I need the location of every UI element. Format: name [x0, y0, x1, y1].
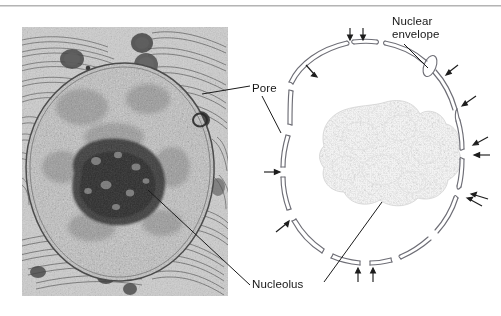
pore-arrow [467, 197, 482, 206]
pore-arrow [306, 65, 317, 77]
label-nuclear-envelope-line2: envelope [392, 28, 439, 41]
label-nucleolus: Nucleolus [252, 278, 303, 291]
pore-arrow [264, 170, 280, 175]
pore-arrow [471, 192, 488, 199]
pore-arrow [276, 221, 289, 232]
diagram-nucleolus [310, 95, 475, 215]
nuclear-envelope-diagram [250, 10, 501, 310]
pore-arrow [446, 65, 458, 75]
pore-arrow [474, 153, 490, 158]
top-rule-secondary [0, 6, 501, 7]
pore-arrow [462, 96, 476, 106]
figure-root: Pore Nucleolus Nuclear envelope [0, 0, 501, 316]
label-nuclear-envelope-line1: Nuclear [392, 15, 439, 28]
micrograph-image [22, 27, 228, 296]
pore-arrow [348, 28, 353, 40]
line-diagram-panel [250, 10, 501, 310]
label-nuclear-envelope: Nuclear envelope [392, 15, 439, 40]
electron-micrograph-panel [22, 27, 228, 296]
pore-arrow [473, 137, 488, 145]
pore-arrow [371, 268, 376, 282]
pore-arrow [356, 268, 361, 282]
label-pore: Pore [252, 82, 277, 95]
pore-arrow [361, 28, 366, 40]
